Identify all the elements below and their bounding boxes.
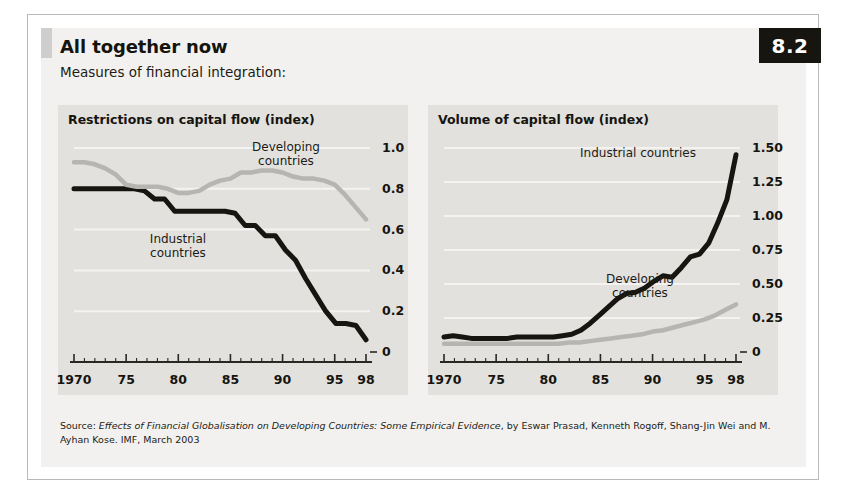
series-label-line: countries <box>252 155 320 169</box>
ytick-label: 0.75 <box>752 242 783 257</box>
series-label-industrial-countries: Industrialcountries <box>150 233 206 261</box>
ytick-label: 0.6 <box>382 222 404 237</box>
card-corner-tab <box>41 28 52 58</box>
xtick-label: 80 <box>540 372 557 387</box>
ytick-label: 0.8 <box>382 181 404 196</box>
ytick-label: 0 <box>752 344 761 359</box>
ytick-label: 1.0 <box>382 140 404 155</box>
xtick-label: 85 <box>222 372 239 387</box>
xtick-label: 75 <box>487 372 504 387</box>
source-prefix: Source: <box>60 420 99 431</box>
series-label-line: Industrial countries <box>580 147 696 161</box>
page-title: All together now <box>60 36 228 57</box>
ytick-label: 0.2 <box>382 303 404 318</box>
chart-panel-volume: Volume of capital flow (index) 1.501.251… <box>428 105 778 395</box>
series-label-industrial-countries: Industrial countries <box>580 147 696 161</box>
series-label-line: countries <box>150 247 206 261</box>
figure-number-badge: 8.2 <box>759 28 821 63</box>
series-label-developing-countries: Developingcountries <box>252 141 320 169</box>
series-label-line: countries <box>606 287 674 301</box>
ytick-label: 1.00 <box>752 208 783 223</box>
chart-panel-restrictions: Restrictions on capital flow (index) 1.0… <box>58 105 408 395</box>
xtick-label: 75 <box>117 372 134 387</box>
xtick-label: 80 <box>170 372 187 387</box>
page-subtitle: Measures of financial integration: <box>60 64 286 80</box>
series-label-line: Industrial <box>150 233 206 247</box>
chart-plot-restrictions <box>58 105 408 395</box>
series-label-developing-countries: Developingcountries <box>606 273 674 301</box>
source-title: Effects of Financial Globalisation on De… <box>99 420 501 431</box>
ytick-label: 0.50 <box>752 276 783 291</box>
xtick-label: 1970 <box>57 372 92 387</box>
ytick-label: 0.25 <box>752 310 783 325</box>
xtick-label: 95 <box>326 372 343 387</box>
xtick-label: 90 <box>274 372 291 387</box>
series-label-line: Developing <box>606 273 674 287</box>
ytick-label: 1.25 <box>752 174 783 189</box>
xtick-label: 98 <box>727 372 744 387</box>
xtick-label: 95 <box>696 372 713 387</box>
source-note: Source: Effects of Financial Globalisati… <box>60 419 780 447</box>
ytick-label: 0.4 <box>382 262 404 277</box>
ytick-label: 1.50 <box>752 140 783 155</box>
figure-container: 8.2 All together now Measures of financi… <box>0 0 843 497</box>
ytick-label: 0 <box>382 344 391 359</box>
xtick-label: 1970 <box>427 372 462 387</box>
xtick-label: 90 <box>644 372 661 387</box>
xtick-label: 98 <box>357 372 374 387</box>
xtick-label: 85 <box>592 372 609 387</box>
series-label-line: Developing <box>252 141 320 155</box>
